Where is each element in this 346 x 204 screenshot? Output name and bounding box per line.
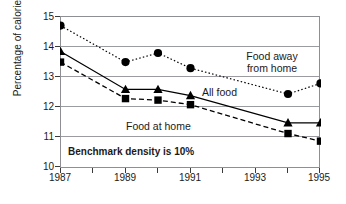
annotation-food-away-line2: from home	[229, 62, 315, 74]
data-point	[317, 137, 321, 144]
x-tick-mark-1988	[92, 168, 93, 173]
x-tick-label-1987: 1987	[40, 172, 80, 183]
data-point	[60, 22, 65, 30]
chart-container: Percentage of calories 15 14 13 12 11 10	[0, 0, 346, 204]
annotation-food-away-line1: Food away	[229, 50, 315, 62]
data-point	[284, 90, 292, 98]
x-tick-label-1989: 1989	[105, 172, 145, 183]
y-axis-title: Percentage of calories	[12, 0, 23, 121]
x-tick-mark-1990	[157, 168, 158, 173]
data-point	[122, 95, 129, 102]
annotation-food-at-home: Food at home	[126, 120, 191, 132]
data-point	[284, 130, 291, 137]
x-tick-label-1991: 1991	[170, 172, 210, 183]
y-tick-label-10: 10	[26, 161, 54, 172]
data-point	[154, 96, 161, 103]
x-tick-mark-1994	[287, 168, 288, 173]
annotation-benchmark: Benchmark density is 10%	[68, 146, 194, 158]
x-tick-label-1993: 1993	[235, 172, 275, 183]
data-point	[186, 64, 194, 72]
annotation-all-food: All food	[202, 86, 237, 98]
data-point	[121, 58, 129, 66]
y-tick-label-13: 13	[26, 71, 54, 82]
y-tick-label-11: 11	[26, 131, 54, 142]
x-tick-mark-1992	[222, 168, 223, 173]
data-point	[187, 101, 194, 108]
annotation-food-away-from-home: Food away from home	[229, 50, 315, 74]
y-tick-label-12: 12	[26, 101, 54, 112]
y-tick-label-14: 14	[26, 41, 54, 52]
data-point	[154, 49, 162, 57]
x-tick-label-1995: 1995	[299, 172, 339, 183]
data-point	[316, 79, 321, 87]
data-point	[60, 58, 64, 65]
data-point	[60, 47, 65, 55]
y-tick-label-15: 15	[26, 11, 54, 22]
